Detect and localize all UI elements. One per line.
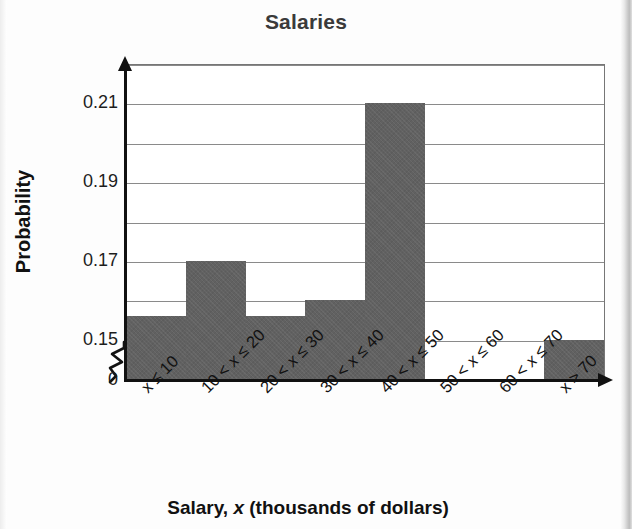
x-axis-title-post: (thousands of dollars): [244, 497, 449, 518]
x-axis-title-pre: Salary,: [167, 497, 233, 518]
y-tick-label: 0.15: [56, 329, 118, 350]
y-tick-label: 0.17: [56, 250, 118, 271]
x-axis-line: [124, 379, 602, 382]
x-axis-title: Salary, x (thousands of dollars): [0, 497, 616, 519]
gridline: [126, 65, 604, 66]
figure-container: Salaries 0.150.170.190.210 Probability x…: [0, 0, 632, 529]
x-tick-label-group: x ≤ 1010 < x ≤ 2020 < x ≤ 3030 < x ≤ 404…: [0, 384, 632, 484]
y-axis-arrow-icon: [118, 56, 132, 71]
y-axis-title: Probability: [12, 137, 35, 307]
x-axis-title-variable: x: [233, 497, 244, 518]
y-axis-line: [124, 68, 127, 382]
y-tick-label: 0.19: [56, 171, 118, 192]
y-tick-label: 0.21: [56, 92, 118, 113]
plot-inner: [126, 65, 604, 379]
